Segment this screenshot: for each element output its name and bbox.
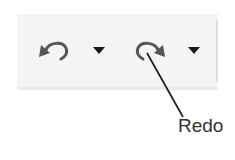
callout-label-redo: Redo <box>178 115 223 137</box>
redo-dropdown-button[interactable] <box>182 40 206 60</box>
caret-down-icon <box>92 45 106 55</box>
screenshot-stage: Redo <box>0 0 235 160</box>
undo-arrow-icon <box>37 38 73 62</box>
toolbar-separator <box>216 20 218 82</box>
redo-arrow-icon <box>131 38 167 62</box>
caret-down-icon <box>187 45 201 55</box>
undo-button[interactable] <box>35 36 75 64</box>
undo-redo-toolbar <box>17 14 218 90</box>
undo-dropdown-button[interactable] <box>87 40 111 60</box>
redo-button[interactable] <box>129 36 169 64</box>
